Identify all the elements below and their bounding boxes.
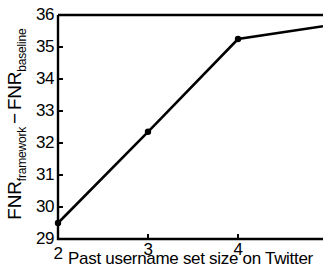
x-axis-label: Past username set size on Twitter <box>58 249 323 269</box>
data-series-line <box>58 26 323 223</box>
chart-figure: FNRframework−FNRbaseline 293031323334353… <box>0 0 323 270</box>
plot-area <box>0 0 323 270</box>
axis-tick-marks <box>58 47 238 239</box>
axis-lines <box>58 15 323 239</box>
